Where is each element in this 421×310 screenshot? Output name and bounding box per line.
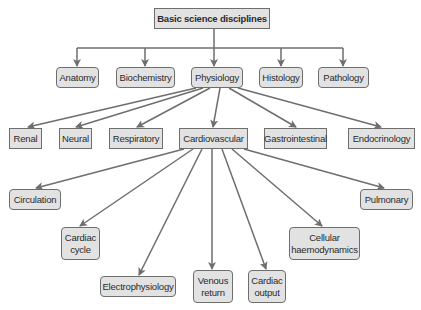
node-circulation: Circulation [9, 189, 61, 210]
node-gastrointestinal: Gastrointestinal [264, 128, 327, 149]
node-basic-science-disciplines: Basic science disciplines [154, 8, 270, 29]
node-electrophysiology: Electrophysiology [100, 276, 176, 297]
node-physiology: Physiology [191, 67, 243, 88]
node-anatomy: Anatomy [56, 67, 99, 88]
node-histology: Histology [259, 67, 303, 88]
node-renal: Renal [9, 128, 42, 149]
connector-lines [0, 0, 421, 310]
node-cardiovascular: Cardiovascular [179, 128, 248, 149]
node-cellular-haemodynamics: Cellular haemodynamics [289, 227, 360, 260]
node-neural: Neural [59, 128, 92, 149]
node-endocrinology: Endocrinology [348, 128, 415, 149]
node-pathology: Pathology [318, 67, 369, 88]
node-respiratory: Respiratory [109, 128, 163, 149]
node-cardiac-output: Cardiac output [248, 270, 286, 303]
node-cardiac-cycle: Cardiac cycle [61, 227, 100, 260]
node-biochemistry: Biochemistry [116, 67, 175, 88]
node-pulmonary: Pulmonary [360, 189, 413, 210]
node-venous-return: Venous return [193, 270, 233, 303]
